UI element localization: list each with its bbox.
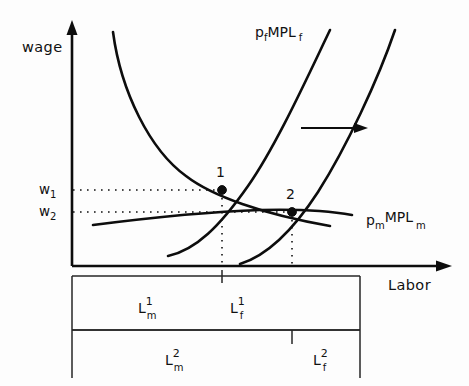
curve-supply-shifted	[240, 30, 395, 264]
svg-text:L2m: L2m	[165, 347, 184, 373]
svg-text:pmMPLm: pmMPLm	[366, 209, 426, 231]
lf1-sup: 1	[238, 295, 245, 308]
lm2-sup: 2	[173, 347, 180, 360]
svg-text:w1: w1	[39, 181, 56, 200]
lf1-sub: f	[240, 310, 244, 321]
pf-prefix: p	[255, 24, 264, 40]
shift-arrow-head	[354, 123, 368, 133]
x-axis-label: Labor	[388, 277, 431, 293]
equilibrium-label-2: 2	[286, 186, 295, 202]
svg-text:L1f: L1f	[230, 295, 245, 321]
lf1-base: L	[230, 300, 238, 316]
equilibrium-dot-1	[218, 186, 227, 195]
curve-group	[93, 30, 395, 264]
curve-female-demand	[113, 32, 330, 226]
economics-diagram: wage Labor pfMPLf pmMPLm 1 2 w1 w2	[0, 0, 469, 386]
pm-suffix-sub: m	[416, 220, 426, 231]
w2-sub: 2	[50, 211, 56, 222]
axis-group	[67, 20, 453, 272]
lf2-sub: f	[323, 362, 327, 373]
bracket-row-2: L2m L2f	[72, 330, 360, 378]
wage-label-2: w2	[39, 203, 56, 222]
lm1-sup: 1	[146, 295, 153, 308]
svg-text:L2f: L2f	[313, 347, 328, 373]
lf2-sup: 2	[321, 347, 328, 360]
y-axis-arrowhead	[67, 20, 78, 35]
equilibrium-dot-2	[288, 208, 297, 217]
w2-base: w	[39, 203, 50, 219]
svg-text:w2: w2	[39, 203, 56, 222]
lm2-base: L	[165, 352, 173, 368]
lm1-base: L	[138, 300, 146, 316]
label-male-demand: pmMPLm	[366, 209, 426, 231]
pf-mpl: MPL	[267, 24, 296, 40]
pf-suffix-sub: f	[299, 32, 303, 43]
pm-prefix-sub: m	[375, 220, 385, 231]
diagram-canvas: wage Labor pfMPLf pmMPLm 1 2 w1 w2	[0, 0, 469, 386]
w1-sub: 1	[50, 189, 56, 200]
x-axis-arrowhead	[436, 261, 452, 272]
svg-text:L1m: L1m	[138, 295, 157, 321]
pm-prefix: p	[366, 212, 375, 228]
rightward-shift-arrow	[301, 123, 368, 133]
label-female-demand: pfMPLf	[255, 24, 303, 43]
pm-mpl: MPL	[385, 209, 414, 225]
lf2-base: L	[313, 352, 321, 368]
lm1-sub: m	[147, 310, 157, 321]
w1-base: w	[39, 181, 50, 197]
lm2-sub: m	[174, 362, 184, 373]
equilibrium-label-1: 1	[216, 164, 225, 180]
bracket-row-1: L1m L1f	[72, 270, 360, 330]
svg-text:pfMPLf: pfMPLf	[255, 24, 303, 43]
y-axis-label: wage	[22, 39, 62, 55]
wage-label-1: w1	[39, 181, 56, 200]
